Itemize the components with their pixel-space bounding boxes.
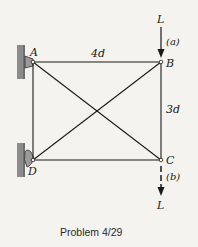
node-label-D: D: [27, 165, 37, 178]
node-label-B: B: [165, 57, 174, 70]
node-label-A: A: [29, 46, 38, 59]
figure-caption: Problem 4/29: [60, 226, 123, 238]
joint-B: [159, 60, 163, 64]
load-a-case: (a): [166, 36, 180, 47]
arrow-down-icon: [158, 187, 165, 196]
load-b: (b) L: [156, 166, 180, 212]
truss-diagram: L (a) (b) L A B C D 4d 3d Problem 4/29: [0, 0, 198, 247]
arrow-down-icon: [158, 49, 165, 58]
load-a: L (a): [156, 13, 180, 58]
dimension-horizontal: 4d: [90, 47, 105, 60]
joint-A: [31, 60, 35, 64]
joint-C: [159, 158, 163, 162]
truss-members: [33, 62, 161, 160]
node-label-C: C: [166, 154, 175, 167]
load-a-label: L: [156, 13, 164, 26]
dimension-vertical: 3d: [166, 103, 180, 116]
joint-D: [31, 158, 35, 162]
load-b-case: (b): [166, 171, 180, 182]
load-b-label: L: [156, 199, 164, 212]
